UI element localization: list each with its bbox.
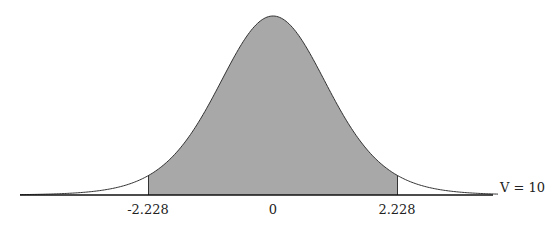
degrees-of-freedom-label: V = 10	[499, 180, 545, 195]
tick-label-center: 0	[269, 202, 277, 217]
t-distribution-diagram: -2.228 0 2.228 V = 10	[0, 0, 559, 228]
shaded-central-region	[149, 16, 398, 195]
tick-label-right: 2.228	[378, 202, 415, 217]
tick-label-left: -2.228	[127, 202, 169, 217]
